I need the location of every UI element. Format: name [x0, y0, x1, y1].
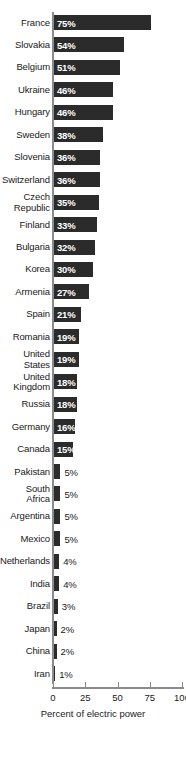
- category-label: France: [0, 17, 50, 28]
- bar-row: Netherlands4%: [0, 554, 186, 569]
- bar-value-label: 75%: [57, 17, 75, 28]
- bar-row: China2%: [0, 644, 186, 659]
- category-label: Bulgaria: [0, 242, 50, 253]
- bar-value-label: 46%: [57, 84, 75, 95]
- category-label: Iran: [0, 668, 50, 679]
- bar-value-label: 16%: [57, 421, 75, 432]
- plot-area: France75%Slovakia54%Belgium51%Ukraine46%…: [0, 0, 186, 761]
- category-label: Korea: [0, 264, 50, 275]
- x-axis-tick: [53, 682, 54, 687]
- bar-value-label: 38%: [57, 129, 75, 140]
- x-axis-line: [52, 687, 184, 689]
- bar-value-label: 51%: [57, 62, 75, 73]
- category-label: Belgium: [0, 62, 50, 73]
- bar-row: Finland33%: [0, 217, 186, 232]
- bar-value-label: 36%: [57, 174, 75, 185]
- bar-row: Romania19%: [0, 329, 186, 344]
- bar-row: Japan2%: [0, 621, 186, 636]
- category-label: Hungary: [0, 107, 50, 118]
- bar-row: Iran1%: [0, 666, 186, 681]
- bar-value-label: 35%: [57, 197, 75, 208]
- category-label: Russia: [0, 399, 50, 410]
- category-label: Pakistan: [0, 466, 50, 477]
- bar-value-label: 1%: [59, 668, 72, 679]
- category-label: Slovenia: [0, 152, 50, 163]
- bar-row: Russia18%: [0, 397, 186, 412]
- category-label: Germany: [0, 421, 50, 432]
- category-label: Slovakia: [0, 40, 50, 51]
- bar-value-label: 2%: [61, 623, 74, 634]
- x-axis-tick-label: 25: [70, 692, 100, 703]
- bar-row: Brazil3%: [0, 599, 186, 614]
- category-label: Sweden: [0, 130, 50, 141]
- bar-row: Mexico5%: [0, 531, 186, 546]
- category-label: Netherlands: [0, 556, 50, 567]
- bar-value-label: 3%: [62, 601, 75, 612]
- category-label: United Kingdom: [0, 371, 50, 392]
- bar-value-label: 19%: [57, 354, 75, 365]
- category-label: China: [0, 646, 50, 657]
- bar-value-label: 33%: [57, 219, 75, 230]
- bar: [54, 554, 59, 569]
- bar-row: Armenia27%: [0, 284, 186, 299]
- category-label: Canada: [0, 444, 50, 455]
- x-axis-tick-label: 75: [135, 692, 165, 703]
- category-label: Mexico: [0, 534, 50, 545]
- bar-value-label: 32%: [57, 242, 75, 253]
- bar: [54, 531, 60, 546]
- category-label: United States: [0, 349, 50, 370]
- category-label: Armenia: [0, 287, 50, 298]
- category-label: Spain: [0, 309, 50, 320]
- category-label: Romania: [0, 332, 50, 343]
- bar: [54, 666, 55, 681]
- bar-row: France75%: [0, 15, 186, 30]
- bar-row: Pakistan5%: [0, 464, 186, 479]
- bar-row: United Kingdom18%: [0, 374, 186, 389]
- bar-value-label: 21%: [57, 309, 75, 320]
- bar-row: Czech Republic35%: [0, 195, 186, 210]
- bar-row: Korea30%: [0, 262, 186, 277]
- bar-value-label: 4%: [63, 556, 76, 567]
- bar-row: Sweden38%: [0, 127, 186, 142]
- bar-row: Bulgaria32%: [0, 240, 186, 255]
- bar-row: Hungary46%: [0, 105, 186, 120]
- bar-row: United States19%: [0, 352, 186, 367]
- bar-row: Belgium51%: [0, 60, 186, 75]
- x-axis-tick-label: 0: [38, 692, 68, 703]
- bar-value-label: 2%: [61, 646, 74, 657]
- bar-value-label: 27%: [57, 286, 75, 297]
- bar-row: Switzerland36%: [0, 172, 186, 187]
- bar-row: Spain21%: [0, 307, 186, 322]
- bar-row: Slovakia54%: [0, 37, 186, 52]
- bar-row: Argentina5%: [0, 509, 186, 524]
- x-axis-tick-label: 50: [103, 692, 133, 703]
- bar-value-label: 19%: [57, 331, 75, 342]
- bar-value-label: 46%: [57, 107, 75, 118]
- bar: [54, 464, 60, 479]
- bar-row: India4%: [0, 576, 186, 591]
- bar-value-label: 15%: [57, 444, 75, 455]
- category-label: Japan: [0, 623, 50, 634]
- bar-value-label: 30%: [57, 264, 75, 275]
- bar-row: Slovenia36%: [0, 150, 186, 165]
- horizontal-bar-chart: France75%Slovakia54%Belgium51%Ukraine46%…: [0, 0, 186, 761]
- category-label: Argentina: [0, 511, 50, 522]
- category-label: Switzerland: [0, 174, 50, 185]
- bar: [54, 621, 57, 636]
- bar-value-label: 5%: [64, 533, 77, 544]
- bar-value-label: 36%: [57, 152, 75, 163]
- bar-value-label: 5%: [64, 511, 77, 522]
- x-axis-tick: [182, 682, 183, 687]
- bar-row: Canada15%: [0, 442, 186, 457]
- bar-value-label: 18%: [57, 376, 75, 387]
- bar-row: South Africa5%: [0, 486, 186, 501]
- x-axis-tick: [85, 682, 86, 687]
- bar: [54, 509, 60, 524]
- category-label: India: [0, 579, 50, 590]
- bar-value-label: 54%: [57, 39, 75, 50]
- bar-value-label: 5%: [64, 466, 77, 477]
- bar: [54, 599, 58, 614]
- bar-row: Germany16%: [0, 419, 186, 434]
- category-label: South Africa: [0, 483, 50, 504]
- category-label: Czech Republic: [0, 192, 50, 213]
